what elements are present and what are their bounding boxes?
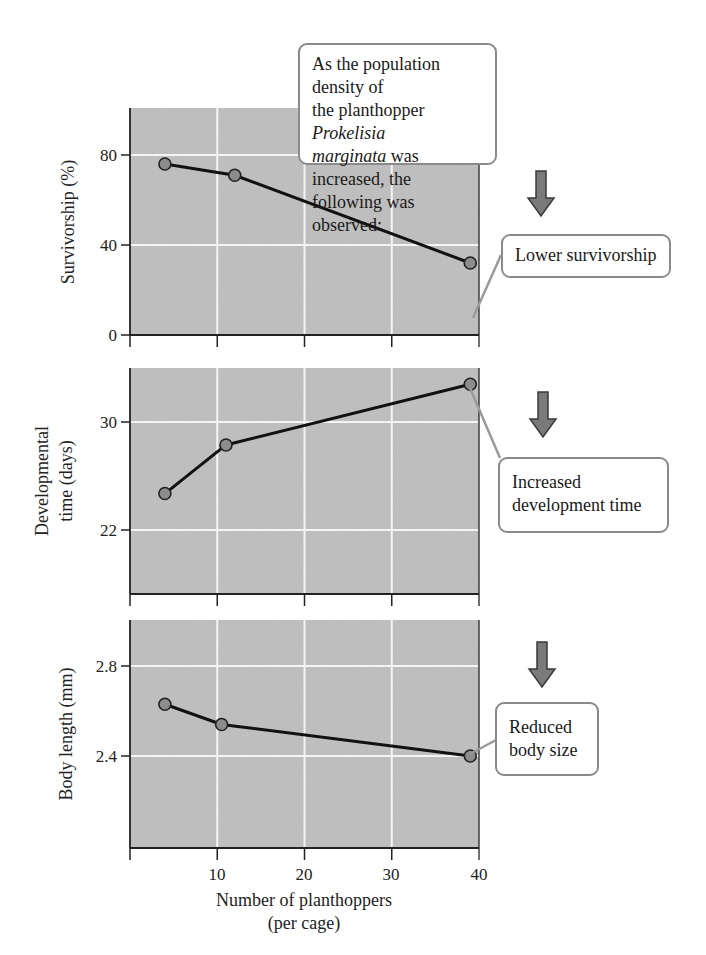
- y-tick-label: 2.8: [96, 657, 117, 676]
- y-tick-label: 2.4: [96, 747, 118, 766]
- down-arrow-icon: [528, 391, 558, 441]
- callout-text-line2: body size: [509, 739, 597, 762]
- data-point: [464, 257, 476, 269]
- body-length-panel: 2.42.8: [96, 620, 479, 860]
- intro-line-4: following was observed:: [312, 191, 485, 237]
- x-axis-title-line1: Number of planthoppers: [216, 890, 392, 910]
- data-point: [159, 158, 171, 170]
- callout-lower-survivorship: Lower survivorship: [501, 234, 671, 278]
- intro-line-2: the planthopper Prokelisia: [312, 99, 485, 145]
- species-genus: Prokelisia: [312, 123, 385, 143]
- intro-line-3: marginata was increased, the: [312, 145, 485, 191]
- down-arrow-icon: [526, 170, 556, 220]
- intro-line-2-text: the planthopper: [312, 100, 424, 120]
- x-tick-10: 10: [209, 865, 226, 884]
- x-tick-30: 30: [383, 865, 400, 884]
- x-tick-40: 40: [471, 865, 488, 884]
- data-point: [229, 169, 241, 181]
- callout-text-line1: Reduced: [509, 716, 597, 739]
- callout-reduced-body-size: Reduced body size: [495, 702, 599, 776]
- data-point: [220, 439, 232, 451]
- callout-text-line2: development time: [512, 494, 667, 517]
- data-point: [159, 488, 171, 500]
- intro-line-1: As the population density of: [312, 53, 485, 99]
- y-tick-label: 0: [109, 326, 118, 345]
- y-axis-title-developmental-line1: Developmental: [32, 426, 52, 536]
- developmental-time-panel: 2230: [100, 368, 479, 606]
- y-axis-title-developmental-line2: time (days): [56, 440, 77, 521]
- x-tick-20: 20: [296, 865, 313, 884]
- down-arrow-icon: [527, 641, 557, 691]
- data-point: [216, 719, 228, 731]
- intro-callout: As the population density of the plantho…: [298, 43, 497, 165]
- species-epithet: marginata: [312, 146, 386, 166]
- callout-text-line1: Increased: [512, 471, 667, 494]
- callout-text: Lower survivorship: [515, 244, 669, 267]
- callout-increased-development-time: Increased development time: [498, 457, 669, 533]
- y-tick-label: 80: [100, 146, 117, 165]
- data-point: [159, 698, 171, 710]
- y-axis-title-body-length: Body length (mm): [56, 668, 77, 801]
- y-tick-label: 30: [100, 413, 117, 432]
- y-axis-title-survivorship: Survivorship (%): [58, 160, 79, 285]
- y-tick-label: 22: [100, 521, 117, 540]
- x-axis-title-line2: (per cage): [268, 913, 340, 934]
- y-tick-label: 40: [100, 236, 117, 255]
